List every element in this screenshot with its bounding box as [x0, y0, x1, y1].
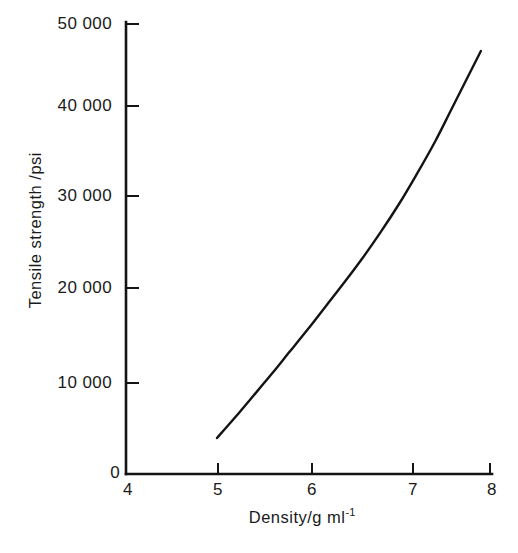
y-tick-label-10000: 10 000	[0, 373, 112, 393]
y-tick-label-50000: 50 000	[0, 14, 112, 34]
plot-area	[0, 0, 518, 553]
x-tick-label-5: 5	[213, 480, 223, 500]
x-axis-title-exponent: -1	[346, 506, 356, 518]
x-tick-label-7: 7	[408, 480, 418, 500]
data-curve	[217, 51, 481, 438]
x-axis-title: Density/g ml-1	[249, 506, 356, 527]
x-tick-label-4: 4	[123, 480, 133, 500]
chart-figure: 50 000 40 000 30 000 20 000 10 000 0 4 5…	[0, 0, 518, 553]
y-axis-title: Tensile strength /psi	[26, 152, 45, 308]
x-tick-label-8: 8	[487, 480, 497, 500]
y-tick-label-0: 0	[110, 463, 120, 483]
x-axis-title-text: Density/g ml	[249, 508, 346, 526]
y-tick-label-30000: 30 000	[0, 186, 112, 206]
x-tick-label-6: 6	[307, 480, 317, 500]
y-tick-label-40000: 40 000	[0, 96, 112, 116]
y-tick-label-20000: 20 000	[0, 278, 112, 298]
